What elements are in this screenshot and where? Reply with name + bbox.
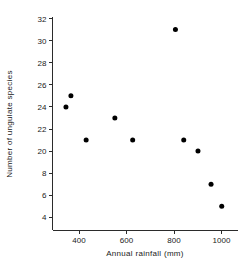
y-tick-label: 6 bbox=[42, 191, 47, 200]
data-point bbox=[112, 115, 117, 120]
data-point bbox=[63, 104, 68, 109]
y-tick-label: 4 bbox=[42, 213, 47, 222]
data-point bbox=[219, 204, 224, 209]
y-tick-group: 32302826242220864 bbox=[38, 15, 53, 223]
y-tick-label: 8 bbox=[42, 169, 47, 178]
data-points-group bbox=[63, 27, 224, 209]
chart-canvas: 32302826242220864 4006008001000 Annual r… bbox=[0, 0, 244, 267]
data-point bbox=[84, 138, 89, 143]
x-tick-label: 400 bbox=[72, 236, 86, 245]
data-point bbox=[209, 182, 214, 187]
data-point bbox=[130, 138, 135, 143]
y-tick-label: 28 bbox=[38, 59, 47, 68]
y-axis: 32302826242220864 bbox=[38, 15, 53, 231]
scatter-plot-figure: 32302826242220864 4006008001000 Annual r… bbox=[0, 0, 244, 267]
data-point bbox=[195, 149, 200, 154]
data-point bbox=[68, 93, 73, 98]
x-axis: 4006008001000 bbox=[53, 231, 239, 245]
y-tick-label: 20 bbox=[38, 147, 47, 156]
data-point bbox=[181, 138, 186, 143]
x-tick-label: 1000 bbox=[213, 236, 231, 245]
x-tick-group: 4006008001000 bbox=[72, 231, 231, 245]
y-axis-title: Number of ungulate species bbox=[5, 70, 14, 177]
y-tick-label: 32 bbox=[38, 15, 47, 24]
y-tick-label: 26 bbox=[38, 81, 47, 90]
y-tick-label: 24 bbox=[38, 103, 47, 112]
y-tick-label: 22 bbox=[38, 125, 47, 134]
x-tick-label: 800 bbox=[167, 236, 181, 245]
data-point bbox=[173, 27, 178, 32]
y-tick-label: 30 bbox=[38, 37, 47, 46]
x-axis-title: Annual rainfall (mm) bbox=[106, 249, 184, 258]
x-tick-label: 600 bbox=[120, 236, 134, 245]
